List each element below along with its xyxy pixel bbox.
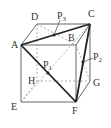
label-c: C — [88, 8, 95, 19]
label-f: F — [72, 105, 78, 116]
label-d: D — [31, 11, 38, 22]
label-p3: P3 — [57, 10, 67, 23]
label-b: B — [68, 32, 75, 43]
label-e: E — [11, 101, 17, 112]
label-p2: P2 — [93, 51, 103, 64]
label-a: A — [11, 39, 19, 50]
hidden-edges — [21, 24, 90, 102]
label-g: G — [93, 77, 100, 88]
cube-diagram: D C A B H G E F P3 P2 P1 — [0, 0, 111, 128]
label-h: H — [28, 75, 35, 86]
